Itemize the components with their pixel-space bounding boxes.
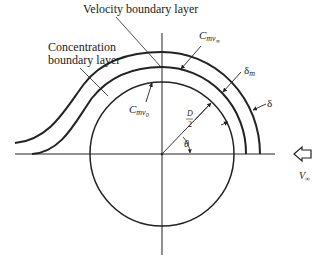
c-free-label: Cmv∞ bbox=[199, 29, 221, 44]
boundary-layer-diagram: Velocity boundary layer Concentration bo… bbox=[0, 0, 321, 265]
c-surface-arrow bbox=[146, 83, 152, 102]
center-dot bbox=[161, 153, 164, 156]
c-free-arrow bbox=[181, 46, 201, 69]
delta-arrow bbox=[253, 104, 266, 110]
velocity-leader bbox=[116, 17, 161, 67]
diameter-denominator: 2 bbox=[188, 120, 192, 129]
freestream-velocity-label: V∞ bbox=[299, 170, 310, 183]
velocity-boundary-arc bbox=[15, 52, 260, 154]
c-surface-label: Cmv0 bbox=[129, 103, 149, 118]
velocity-boundary-label: Velocity boundary layer bbox=[83, 2, 198, 16]
theta-label: θ bbox=[184, 138, 189, 149]
concentration-label-line1: Concentration bbox=[48, 40, 116, 54]
concentration-label-line2: boundary layer bbox=[48, 53, 120, 67]
freestream-arrow-icon bbox=[294, 147, 311, 161]
diameter-numerator: D bbox=[186, 109, 193, 118]
delta-m-label: δm bbox=[244, 64, 255, 78]
radius-arrow-head bbox=[195, 103, 211, 120]
delta-label: δ bbox=[267, 97, 272, 109]
